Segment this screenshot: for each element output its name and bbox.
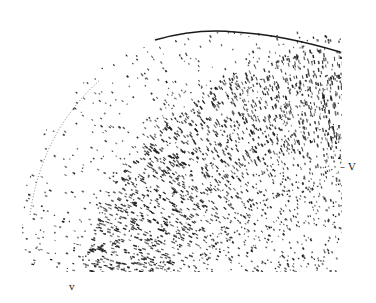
layer-label-v-right: – V bbox=[340, 161, 355, 172]
layer-label-v-bottom: v bbox=[69, 281, 75, 292]
cortex-section-illustration bbox=[0, 0, 376, 303]
pial-surface-line-left bbox=[30, 80, 100, 215]
stippled-cells bbox=[20, 28, 346, 275]
pial-surface-line bbox=[155, 31, 235, 40]
